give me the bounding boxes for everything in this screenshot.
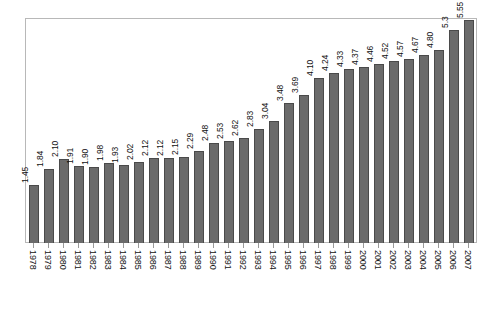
x-axis-label-slot: 1994 (266, 250, 281, 310)
x-axis-category-label: 1981 (73, 250, 83, 270)
x-axis-label-slot: 1985 (131, 250, 146, 310)
x-axis-tick (356, 243, 371, 248)
bar-slot: 2.12 (146, 19, 161, 243)
x-axis-tick (266, 243, 281, 248)
bar-value-label: 2.15 (170, 138, 180, 154)
bar-rect[interactable] (464, 20, 474, 243)
bar-slot: 5.3 (446, 19, 461, 243)
x-axis-label-slot: 1989 (191, 250, 206, 310)
x-axis-tick (416, 243, 431, 248)
bar-rect[interactable] (314, 78, 324, 243)
x-axis-tick (221, 243, 236, 248)
bar-rect[interactable] (449, 30, 459, 243)
bar-rect[interactable] (419, 55, 429, 243)
bar-value-label: 2.12 (140, 140, 150, 156)
bar-value-label: 2.12 (155, 140, 165, 156)
x-axis-category-label: 1986 (148, 250, 158, 270)
bar-value-label: 4.10 (305, 60, 315, 76)
bar-rect[interactable] (329, 73, 339, 243)
bar-rect[interactable] (209, 143, 219, 243)
x-axis-tick (461, 243, 476, 248)
x-axis-label-slot: 2006 (446, 250, 461, 310)
bar-rect[interactable] (389, 61, 399, 243)
x-axis-label-slot: 1978 (26, 250, 41, 310)
bar-value-label: 2.10 (50, 140, 60, 156)
bar-rect[interactable] (149, 158, 159, 243)
x-axis-tick (371, 243, 386, 248)
bar-value-label: 2.83 (245, 111, 255, 127)
bar-rect[interactable] (404, 59, 414, 243)
bar-value-label: 1.91 (65, 148, 75, 164)
x-axis-tick (101, 243, 116, 248)
x-axis-label-slot: 1979 (41, 250, 56, 310)
x-axis-tick-marks (26, 243, 476, 248)
tick-mark (153, 243, 154, 248)
x-axis-tick (41, 243, 56, 248)
bar-slot: 3.69 (296, 19, 311, 243)
bar-rect[interactable] (254, 129, 264, 243)
x-axis-label-slot: 2007 (461, 250, 476, 310)
bar-rect[interactable] (239, 138, 249, 243)
x-axis-tick (161, 243, 176, 248)
bar-rect[interactable] (269, 121, 279, 243)
x-axis-tick (251, 243, 266, 248)
bar-rect[interactable] (59, 159, 69, 243)
x-axis-category-label: 2003 (403, 250, 413, 270)
tick-mark (288, 243, 289, 248)
bar-rect[interactable] (119, 165, 129, 243)
tick-mark (123, 243, 124, 248)
bar-slot: 1.93 (116, 19, 131, 243)
bar-value-label: 4.57 (395, 41, 405, 57)
bar-rect[interactable] (104, 163, 114, 243)
bar-value-label: 4.46 (365, 46, 375, 62)
bar-slot: 2.15 (176, 19, 191, 243)
bar-rect[interactable] (44, 169, 54, 243)
tick-mark (408, 243, 409, 248)
x-axis-label-slot: 1988 (176, 250, 191, 310)
bar-rect[interactable] (434, 50, 444, 243)
x-axis-category-label: 1980 (58, 250, 68, 270)
bar-rect[interactable] (344, 69, 354, 243)
bar-rect[interactable] (89, 167, 99, 243)
bar-rect[interactable] (299, 95, 309, 243)
bar-rect[interactable] (359, 67, 369, 243)
x-axis-tick (296, 243, 311, 248)
bar-rect[interactable] (74, 166, 84, 243)
tick-mark (258, 243, 259, 248)
bar-slot: 2.02 (131, 19, 146, 243)
bar-rect[interactable] (29, 185, 39, 243)
tick-mark (393, 243, 394, 248)
bar-rect[interactable] (374, 64, 384, 243)
bar-value-label: 3.04 (260, 103, 270, 119)
x-axis-label-slot: 1995 (281, 250, 296, 310)
x-axis-category-label: 1993 (253, 250, 263, 270)
bar-value-label: 1.98 (95, 145, 105, 161)
bar-rect[interactable] (224, 141, 234, 243)
x-axis-label-slot: 1986 (146, 250, 161, 310)
tick-mark (303, 243, 304, 248)
bars-container: 1.451.842.101.911.901.981.932.022.122.12… (26, 19, 476, 243)
x-axis-label-slot: 1996 (296, 250, 311, 310)
bar-rect[interactable] (194, 151, 204, 243)
bar-rect[interactable] (179, 157, 189, 243)
x-axis-label-slot: 1998 (326, 250, 341, 310)
x-axis-tick (146, 243, 161, 248)
bar-rect[interactable] (164, 158, 174, 243)
x-axis-tick (116, 243, 131, 248)
x-axis-label-slot: 1987 (161, 250, 176, 310)
bar-rect[interactable] (284, 103, 294, 243)
x-axis-category-label: 2000 (358, 250, 368, 270)
bar-slot: 4.67 (416, 19, 431, 243)
bar-value-label: 3.48 (275, 85, 285, 101)
bar-value-label: 3.69 (290, 77, 300, 93)
x-axis-category-label: 1983 (103, 250, 113, 270)
x-axis-tick (326, 243, 341, 248)
x-axis-category-label: 1994 (268, 250, 278, 270)
bar-value-label: 2.02 (125, 144, 135, 160)
x-axis-category-label: 2001 (373, 250, 383, 270)
bar-rect[interactable] (134, 162, 144, 243)
x-axis-category-label: 1988 (178, 250, 188, 270)
x-axis-category-label: 1984 (118, 250, 128, 270)
x-axis-category-label: 1999 (343, 250, 353, 270)
bar-value-label: 5.55 (455, 2, 465, 18)
